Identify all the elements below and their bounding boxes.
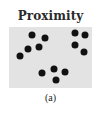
dot	[82, 32, 89, 39]
dot	[36, 44, 43, 51]
dot	[53, 77, 60, 84]
dot	[25, 46, 32, 53]
dot	[29, 32, 36, 39]
dot	[42, 35, 49, 42]
dot	[72, 30, 79, 37]
dot	[81, 49, 88, 56]
dot	[62, 69, 69, 76]
dot	[17, 53, 24, 60]
dot	[72, 42, 79, 49]
dot	[39, 70, 46, 77]
dot	[51, 66, 58, 73]
figure-title: Proximity	[0, 9, 101, 23]
figure-caption: (a)	[0, 92, 101, 103]
